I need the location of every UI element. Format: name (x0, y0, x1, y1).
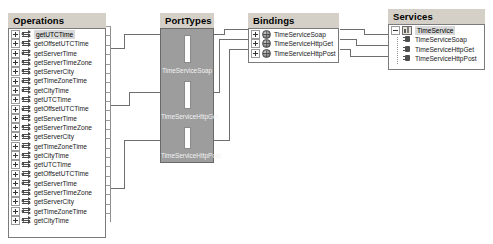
operation-icon (22, 77, 31, 85)
plus-expander-icon[interactable] (11, 95, 20, 104)
operation-row-label: getServerTimeZone (34, 58, 92, 67)
operation-row-label: getCityTime (34, 151, 69, 160)
operation-icon (22, 68, 31, 76)
operation-icon (22, 152, 31, 160)
binding-row[interactable]: TimeServiceHttpGet (249, 39, 338, 48)
plus-expander-icon[interactable] (11, 49, 20, 58)
port-icon (403, 45, 412, 54)
operation-row[interactable]: getCityTime (9, 86, 105, 95)
service-port-row[interactable]: TimeServiceHttpPost (389, 54, 484, 63)
plus-expander-icon[interactable] (11, 105, 20, 114)
plus-expander-icon[interactable] (251, 49, 260, 58)
plus-expander-icon[interactable] (11, 30, 20, 39)
services-root-row[interactable]: TimeService (389, 26, 484, 35)
plus-expander-icon[interactable] (251, 30, 260, 39)
operation-icon (22, 161, 31, 169)
operation-row[interactable]: getTimeZoneTime (9, 142, 105, 151)
binding-icon (262, 49, 271, 58)
porttypes-header: PortTypes (160, 13, 214, 28)
bindings-header: Bindings (248, 13, 339, 28)
operation-row-label: getServerTimeZone (34, 188, 92, 197)
operation-row[interactable]: getOffsetUTCTime (9, 104, 105, 113)
operation-row-label: getServerCity (34, 197, 74, 206)
binding-row-label: TimeServiceSoap (274, 30, 326, 39)
operation-row-label: getServerCity (34, 67, 74, 76)
operation-row[interactable]: getTimeZoneTime (9, 76, 105, 85)
operation-row[interactable]: getCityTime (9, 151, 105, 160)
plus-expander-icon[interactable] (11, 170, 20, 179)
operation-row[interactable]: getServerCity (9, 132, 105, 141)
plus-expander-icon[interactable] (11, 197, 20, 206)
plus-expander-icon[interactable] (11, 67, 20, 76)
operations-panel: Operations getUTCTimegetOffsetUTCTimeget… (8, 13, 106, 238)
porttypes-body[interactable]: TimeServiceSoap TimeServiceHttpGet TimeS… (160, 28, 214, 163)
operation-icon (22, 207, 31, 215)
binding-icon (262, 39, 271, 48)
operation-row[interactable]: getOffsetUTCTime (9, 169, 105, 178)
port-icon (403, 35, 412, 44)
operation-icon (22, 86, 31, 94)
operation-row[interactable]: getCityTime (9, 216, 105, 225)
operation-row[interactable]: getServerTimeZone (9, 123, 105, 132)
operation-row[interactable]: getServerCity (9, 67, 105, 76)
operation-row[interactable]: getUTCTime (9, 95, 105, 104)
plus-expander-icon[interactable] (11, 160, 20, 169)
plus-expander-icon[interactable] (11, 179, 20, 188)
service-port-row[interactable]: TimeServiceHttpGet (389, 45, 484, 54)
operation-row[interactable]: getServerTime (9, 49, 105, 58)
plus-expander-icon[interactable] (11, 151, 20, 160)
plus-expander-icon[interactable] (11, 132, 20, 141)
operation-icon (22, 170, 31, 178)
operation-row[interactable]: getServerTimeZone (9, 58, 105, 67)
operation-row-label: getTimeZoneTime (34, 76, 87, 85)
operation-icon (22, 105, 31, 113)
operation-icon (22, 49, 31, 57)
binding-icon (262, 30, 271, 39)
plus-expander-icon[interactable] (11, 207, 20, 216)
operation-icon (22, 31, 31, 39)
plus-expander-icon[interactable] (11, 114, 20, 123)
binding-row-label: TimeServiceHttpPost (274, 49, 336, 58)
minus-expander-icon[interactable] (391, 26, 400, 35)
operation-row[interactable]: getUTCTime (9, 30, 105, 39)
porttype-label-httppost: TimeServiceHttpPost (161, 152, 213, 160)
port-icon (403, 54, 412, 63)
plus-expander-icon[interactable] (11, 77, 20, 86)
operation-icon (22, 40, 31, 48)
operation-row-label: getServerCity (34, 132, 74, 141)
plus-expander-icon[interactable] (11, 86, 20, 95)
bindings-list[interactable]: TimeServiceSoapTimeServiceHttpGetTimeSer… (248, 28, 339, 63)
plus-expander-icon[interactable] (11, 58, 20, 67)
operation-row[interactable]: getOffsetUTCTime (9, 39, 105, 48)
operation-row[interactable]: getUTCTime (9, 160, 105, 169)
operation-row[interactable]: getServerTime (9, 114, 105, 123)
operation-row-label: getTimeZoneTime (34, 207, 87, 216)
services-root-label: TimeService (415, 26, 455, 35)
plus-expander-icon[interactable] (11, 216, 20, 225)
plus-expander-icon[interactable] (251, 39, 260, 48)
plus-expander-icon[interactable] (11, 188, 20, 197)
services-port-list[interactable]: TimeServiceSoapTimeServiceHttpGetTimeSer… (389, 35, 484, 63)
operation-row-label: getTimeZoneTime (34, 142, 87, 151)
porttype-bar-soap[interactable] (184, 35, 191, 63)
plus-expander-icon[interactable] (11, 142, 20, 151)
operation-row[interactable]: getServerTime (9, 179, 105, 188)
operations-list[interactable]: getUTCTimegetOffsetUTCTimegetServerTimeg… (8, 28, 106, 238)
operation-row-label: getServerTime (34, 49, 77, 58)
plus-expander-icon[interactable] (11, 123, 20, 132)
operation-row[interactable]: getTimeZoneTime (9, 207, 105, 216)
binding-row[interactable]: TimeServiceHttpPost (249, 49, 338, 58)
operation-row-label: getUTCTime (34, 160, 71, 169)
operation-icon (22, 217, 31, 225)
operation-row-label: getUTCTime (34, 95, 71, 104)
plus-expander-icon[interactable] (11, 39, 20, 48)
service-port-row[interactable]: TimeServiceSoap (389, 35, 484, 44)
operation-row[interactable]: getServerCity (9, 197, 105, 206)
operation-row-label: getOffsetUTCTime (34, 39, 89, 48)
binding-row[interactable]: TimeServiceSoap (249, 30, 338, 39)
porttype-bar-httppost[interactable] (184, 127, 191, 149)
services-tree[interactable]: TimeService TimeServiceSoapTimeServiceHt… (388, 24, 485, 70)
operation-row[interactable]: getServerTimeZone (9, 188, 105, 197)
porttype-bar-httpget[interactable] (184, 81, 191, 109)
service-port-row-label: TimeServiceHttpGet (415, 45, 474, 54)
